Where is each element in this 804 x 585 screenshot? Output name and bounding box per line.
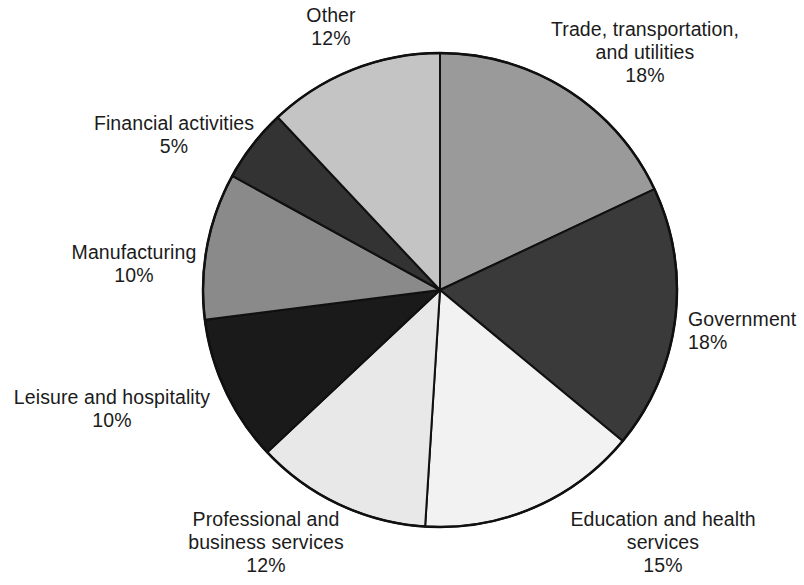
pie-slice-group xyxy=(203,53,677,527)
pie-slice-label-name: Other xyxy=(268,4,394,27)
pie-slice-label-name: Government xyxy=(688,308,804,331)
pie-slice-label: Manufacturing10% xyxy=(60,241,208,287)
pie-slice-label: Other12% xyxy=(268,4,394,50)
pie-slice-label-percent: 12% xyxy=(140,554,392,577)
pie-slice-label-name: Financial activities xyxy=(82,112,266,135)
pie-slice-label: Professional and business services12% xyxy=(140,508,392,577)
pie-slice-label-name: Education and health services xyxy=(548,508,778,554)
pie-slice-label-percent: 12% xyxy=(268,27,394,50)
pie-slice-label-percent: 10% xyxy=(6,409,218,432)
pie-slice-label-name: Leisure and hospitality xyxy=(6,386,218,409)
pie-slice-label: Leisure and hospitality10% xyxy=(6,386,218,432)
pie-slice-label-percent: 18% xyxy=(688,331,804,354)
pie-slice-label: Education and health services15% xyxy=(548,508,778,577)
pie-slice-label-percent: 10% xyxy=(60,264,208,287)
pie-chart-canvas xyxy=(0,0,804,585)
pie-slice-label: Trade, transportation, and utilities18% xyxy=(520,18,770,87)
pie-slice-label-percent: 15% xyxy=(548,554,778,577)
pie-slice-label-name: Trade, transportation, and utilities xyxy=(520,18,770,64)
pie-slice-label-percent: 5% xyxy=(82,135,266,158)
pie-slice-label-percent: 18% xyxy=(520,64,770,87)
pie-slice-label: Financial activities5% xyxy=(82,112,266,158)
pie-chart-figure: Trade, transportation, and utilities18%G… xyxy=(0,0,804,585)
pie-slice-label-name: Professional and business services xyxy=(140,508,392,554)
pie-slice-label: Government18% xyxy=(688,308,804,354)
pie-slice-label-name: Manufacturing xyxy=(60,241,208,264)
